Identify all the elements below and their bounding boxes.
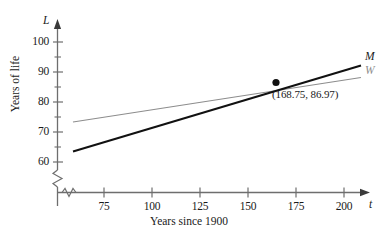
x-tick-label-175: 175 xyxy=(276,201,316,213)
series-label-w: W xyxy=(365,65,375,77)
y-axis-arrowhead xyxy=(54,19,61,29)
x-axis-title: Years since 1900 xyxy=(150,216,228,228)
y-axis-title: Years of life xyxy=(9,56,21,112)
x-tick-label-150: 150 xyxy=(228,201,268,213)
chart-figure: 100 90 80 70 60 75 100 125 150 175 200 L… xyxy=(0,0,386,238)
intersection-point-marker xyxy=(272,79,279,86)
x-axis-arrowhead xyxy=(360,189,370,197)
series-line-m xyxy=(73,66,361,152)
x-tick-label-200: 200 xyxy=(324,201,364,213)
x-tick-label-100: 100 xyxy=(132,201,172,213)
y-tick-label-60: 60 xyxy=(15,156,49,168)
y-axis-break-icon xyxy=(53,170,62,187)
x-axis-variable-label: t xyxy=(369,199,372,211)
x-tick-label-75: 75 xyxy=(84,201,124,213)
y-axis-title-wrapper: Years of life xyxy=(5,44,21,124)
series-label-m: M xyxy=(365,51,375,63)
y-axis-variable-label: L xyxy=(43,15,49,27)
x-tick-label-125: 125 xyxy=(180,201,220,213)
y-tick-label-70: 70 xyxy=(15,126,49,138)
intersection-annotation: (168.75, 86.97) xyxy=(272,89,338,100)
